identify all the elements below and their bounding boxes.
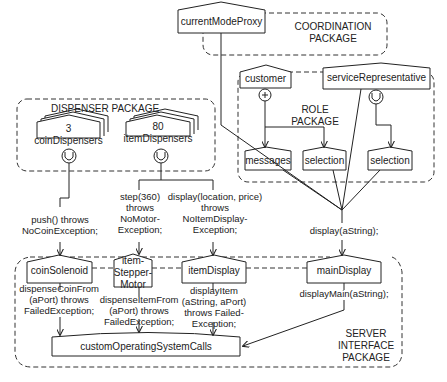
customer[interactable]: customer [240,71,291,87]
coin-dispensers[interactable]: 3 coinDispensers [37,123,100,147]
display-main-message: displayMain(aString); [297,288,391,299]
push-message: push() throws NoCoinException; [20,214,100,236]
role-package-label: ROLE PACKAGE [285,104,345,128]
item-display[interactable]: itemDisplay [182,261,246,281]
display-location-message: display(location, price) throws NoItemDi… [160,191,270,235]
display-item-message: displayItem (aString, aPort) throws Fail… [180,285,248,329]
dispense-item-message: dispenseItemFrom (aPort) throws FailedEx… [97,294,181,327]
coin-solenoid[interactable]: coinSolenoid [27,261,92,281]
item-dispensers[interactable]: 80 itemDispensers [126,121,190,145]
dispense-coin-message: dispenseCoinFrom (aPort) throws FailedEx… [18,283,100,316]
main-display[interactable]: mainDisplay [307,261,381,281]
item-stepper-motor[interactable]: item- Stepper- Motor [114,258,152,288]
dispenser-package-label: DISPENSER PACKAGE [40,103,170,115]
server-interface-package-label: SERVER INTERFACE PACKAGE [335,328,397,364]
service-representative[interactable]: serviceRepresentative [323,68,430,88]
display-astring-message: display(aString); [306,225,382,236]
selection-1[interactable]: selection [303,152,346,170]
custom-os-calls[interactable]: customOperatingSystemCalls [52,338,240,356]
coordination-package-label: COORDINATION PACKAGE [283,21,383,45]
current-mode-proxy[interactable]: currentModeProxy [178,12,265,32]
messages[interactable]: messages [245,152,291,170]
selection-2[interactable]: selection [368,152,412,170]
